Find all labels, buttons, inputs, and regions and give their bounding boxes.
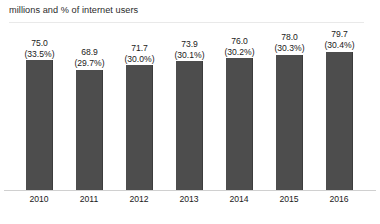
bar-value-label: 71.7 [124, 43, 154, 54]
bar-value-label: 68.9 [74, 47, 104, 58]
bar-label: 73.9 (30.1%) [174, 39, 204, 60]
bar-2015[interactable] [276, 55, 303, 191]
x-tick-label-2012: 2012 [119, 193, 159, 205]
bar-group: 78.0 (30.3%) [276, 26, 303, 191]
bar-value-label: 78.0 [274, 32, 304, 43]
x-tick-label-2010: 2010 [19, 193, 59, 205]
bar-label: 68.9 (29.7%) [74, 47, 104, 68]
bar-2014[interactable] [226, 58, 253, 191]
bar-2010[interactable] [26, 60, 53, 191]
bar-group: 76.0 (30.2%) [226, 26, 253, 191]
bar-2013[interactable] [176, 61, 203, 191]
bar-value-label: 73.9 [174, 39, 204, 50]
plot-area: 75.0 (33.5%) 68.9 (29.7%) 71.7 (30.0%) 7… [0, 26, 380, 191]
bar-group: 71.7 (30.0%) [126, 26, 153, 191]
header-divider [9, 22, 364, 23]
bar-value-label: 75.0 [24, 38, 54, 49]
x-axis-line [4, 190, 376, 191]
bar-group: 79.7 (30.4%) [326, 26, 353, 191]
chart-footnote [9, 219, 371, 224]
bar-percent-label: (30.0%) [124, 54, 154, 65]
bar-group: 68.9 (29.7%) [76, 26, 103, 191]
bar-percent-label: (33.5%) [24, 49, 54, 60]
bar-percent-label: (29.7%) [74, 58, 104, 69]
bar-value-label: 76.0 [224, 36, 254, 47]
x-tick-label-2014: 2014 [219, 193, 259, 205]
bar-label: 75.0 (33.5%) [24, 38, 54, 59]
bar-percent-label: (30.1%) [174, 50, 204, 61]
x-tick-label-2011: 2011 [69, 193, 109, 205]
bar-label: 76.0 (30.2%) [224, 36, 254, 57]
x-tick-label-2015: 2015 [269, 193, 309, 205]
bar-2012[interactable] [126, 65, 153, 191]
bar-value-label: 79.7 [324, 29, 354, 40]
bar-2016[interactable] [326, 52, 353, 191]
bar-group: 73.9 (30.1%) [176, 26, 203, 191]
bar-chart: millions and % of internet users 75.0 (3… [0, 0, 380, 224]
bar-percent-label: (30.2%) [224, 47, 254, 58]
bar-percent-label: (30.3%) [274, 43, 304, 54]
bar-label: 78.0 (30.3%) [274, 32, 304, 53]
chart-subtitle: millions and % of internet users [9, 4, 138, 16]
bar-group: 75.0 (33.5%) [26, 26, 53, 191]
bar-2011[interactable] [76, 70, 103, 191]
bar-label: 79.7 (30.4%) [324, 29, 354, 50]
bar-label: 71.7 (30.0%) [124, 43, 154, 64]
x-tick-label-2016: 2016 [319, 193, 359, 205]
x-axis-labels: 2010 2011 2012 2013 2014 2015 2016 [0, 193, 380, 207]
x-tick-label-2013: 2013 [169, 193, 209, 205]
bar-percent-label: (30.4%) [324, 40, 354, 51]
